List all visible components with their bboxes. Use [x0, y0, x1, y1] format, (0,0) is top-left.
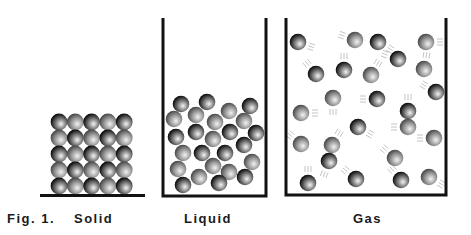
motion-line — [340, 31, 346, 33]
dark-particle — [67, 162, 84, 179]
motion-line — [369, 130, 374, 133]
light-particle — [221, 103, 238, 120]
liquid-particles — [166, 94, 265, 194]
light-particle — [400, 119, 417, 136]
light-particle — [418, 34, 435, 51]
light-particle — [67, 146, 84, 163]
light-particle — [67, 114, 84, 131]
light-particle — [51, 130, 68, 147]
light-particle — [188, 107, 205, 124]
light-particle — [416, 61, 433, 78]
motion-line — [382, 147, 387, 151]
motion-line — [305, 61, 309, 66]
light-particle — [293, 136, 310, 153]
light-particle — [116, 130, 133, 147]
dark-particle — [116, 114, 133, 131]
light-particle — [83, 162, 100, 179]
light-particle — [293, 105, 310, 122]
dark-particle — [51, 114, 68, 131]
light-particle — [347, 32, 364, 49]
motion-line — [309, 43, 315, 45]
motion-line — [335, 129, 338, 134]
motion-line — [290, 131, 295, 135]
motion-line — [340, 132, 343, 137]
solid-particles — [51, 114, 133, 195]
dark-particle — [83, 114, 100, 131]
solid-label: Solid — [74, 211, 113, 226]
dark-particle — [321, 153, 338, 170]
light-particle — [387, 150, 404, 167]
motion-line — [426, 52, 427, 58]
dark-particle — [51, 178, 68, 195]
gas-motion-lines — [286, 31, 445, 188]
dark-particle — [83, 146, 100, 163]
motion-line — [440, 180, 445, 183]
motion-line — [390, 167, 394, 172]
motion-line — [303, 63, 307, 68]
motion-line — [307, 49, 313, 51]
motion-line — [377, 60, 380, 65]
dark-particle — [248, 125, 265, 142]
dark-particle — [173, 96, 190, 113]
dark-particle — [116, 178, 133, 195]
dark-particle — [242, 98, 259, 115]
light-particle — [191, 169, 208, 186]
motion-line — [423, 81, 428, 84]
light-particle — [363, 67, 380, 84]
light-particle — [324, 137, 341, 154]
light-particle — [116, 162, 133, 179]
motion-line — [439, 183, 444, 186]
solid-panel — [40, 114, 145, 197]
light-particle — [100, 178, 117, 195]
dark-particle — [308, 66, 325, 83]
motion-line — [423, 52, 424, 58]
light-particle — [205, 158, 222, 175]
dark-particle — [168, 129, 185, 146]
motion-line — [388, 169, 392, 174]
motion-line — [308, 46, 314, 48]
light-particle — [51, 162, 68, 179]
dark-particle — [237, 169, 254, 186]
dark-particle — [188, 124, 205, 141]
light-particle — [67, 178, 84, 195]
liquid-label: Liquid — [184, 211, 232, 226]
motion-line — [437, 185, 442, 188]
dark-particle — [100, 130, 117, 147]
motion-line — [345, 166, 350, 170]
motion-line — [421, 84, 426, 87]
liquid-panel — [163, 18, 266, 196]
gas-particles — [290, 32, 445, 192]
light-particle — [170, 161, 187, 178]
figure-caption-prefix: Fig. 1. — [7, 211, 55, 226]
dark-particle — [336, 62, 353, 79]
dark-particle — [100, 162, 117, 179]
light-particle — [207, 114, 224, 131]
motion-line — [380, 149, 385, 153]
states-of-matter-diagram — [0, 0, 471, 235]
motion-line — [320, 170, 322, 176]
light-particle — [100, 114, 117, 131]
dark-particle — [116, 146, 133, 163]
dark-particle — [217, 145, 234, 162]
light-particle — [244, 154, 261, 171]
motion-line — [307, 59, 311, 64]
dark-particle — [370, 34, 387, 51]
dark-particle — [199, 94, 216, 111]
motion-line — [339, 34, 345, 36]
motion-line — [343, 168, 348, 172]
light-particle — [166, 111, 183, 128]
dark-particle — [194, 145, 211, 162]
dark-particle — [51, 146, 68, 163]
dark-particle — [175, 177, 192, 194]
motion-line — [288, 133, 293, 137]
dark-particle — [83, 178, 100, 195]
dark-particle — [428, 84, 445, 101]
motion-line — [326, 172, 328, 178]
motion-line — [341, 170, 346, 174]
gas-panel — [286, 18, 446, 195]
dark-particle — [290, 34, 307, 51]
motion-line — [338, 130, 341, 135]
motion-line — [374, 59, 377, 64]
light-particle — [205, 131, 222, 148]
motion-line — [338, 37, 344, 39]
